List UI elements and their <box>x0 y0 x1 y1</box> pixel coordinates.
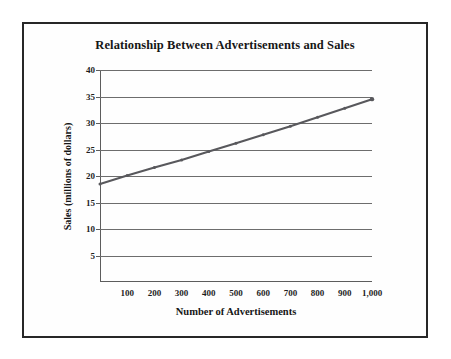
data-series-layer <box>100 70 372 282</box>
x-tick-label: 300 <box>175 288 189 298</box>
y-tick-label: 30 <box>86 118 95 128</box>
data-point-marker <box>235 142 238 145</box>
x-tick-label: 100 <box>120 288 134 298</box>
data-point-marker <box>99 182 102 185</box>
data-point-marker <box>289 125 292 128</box>
y-axis-title: Sales (millions of dollars) <box>60 70 76 282</box>
y-tick-label: 40 <box>86 65 95 75</box>
x-tick-label: 700 <box>284 288 298 298</box>
data-point-marker <box>370 97 374 101</box>
y-axis-title-text: Sales (millions of dollars) <box>63 122 74 230</box>
chart-title: Relationship Between Advertisements and … <box>24 38 426 53</box>
y-tick-label: 10 <box>86 224 95 234</box>
y-tick-label: 5 <box>91 251 96 261</box>
data-point-marker <box>262 133 265 136</box>
x-tick-label: 1,000 <box>362 288 382 298</box>
y-tick-label: 15 <box>86 198 95 208</box>
plot-wrap: 510152025303540 100200300400500600700800… <box>100 70 372 282</box>
x-tick-label: 600 <box>256 288 270 298</box>
y-tick-label: 35 <box>86 92 95 102</box>
plot-area: 510152025303540 100200300400500600700800… <box>100 70 372 282</box>
x-tick-label: 800 <box>311 288 325 298</box>
y-tick-label: 25 <box>86 145 95 155</box>
figure-frame: Relationship Between Advertisements and … <box>22 22 428 338</box>
x-tick-label: 200 <box>148 288 162 298</box>
x-axis-title: Number of Advertisements <box>100 306 372 317</box>
x-tick-label: 500 <box>229 288 243 298</box>
x-tick-label: 900 <box>338 288 352 298</box>
data-point-marker <box>153 166 156 169</box>
data-point-marker <box>180 159 183 162</box>
x-tick-label: 400 <box>202 288 216 298</box>
data-point-marker <box>316 116 319 119</box>
data-point-marker <box>126 174 129 177</box>
y-tick-label: 20 <box>86 171 95 181</box>
data-point-marker <box>343 107 346 110</box>
chart-screenshot: Relationship Between Advertisements and … <box>0 0 451 359</box>
data-point-marker <box>207 150 210 153</box>
series-line-sales <box>100 99 372 184</box>
